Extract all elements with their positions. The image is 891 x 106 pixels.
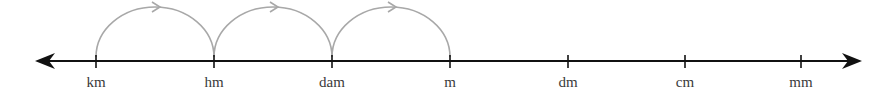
unit-label-hm: hm	[204, 73, 223, 91]
number-line-axis	[35, 53, 862, 69]
unit-label-dm: dm	[558, 73, 577, 91]
unit-label-m: m	[444, 73, 456, 91]
unit-number-line-diagram: km hm dam m dm cm mm	[0, 0, 891, 106]
jump-arc-km-hm	[96, 7, 214, 57]
jump-arc-dam-m	[332, 7, 450, 57]
jump-arc-hm-dam	[214, 7, 332, 57]
unit-label-km: km	[86, 73, 105, 91]
unit-label-dam: dam	[319, 73, 345, 91]
unit-label-mm: mm	[789, 73, 812, 91]
jump-arcs	[96, 2, 450, 57]
unit-label-cm: cm	[676, 73, 694, 91]
